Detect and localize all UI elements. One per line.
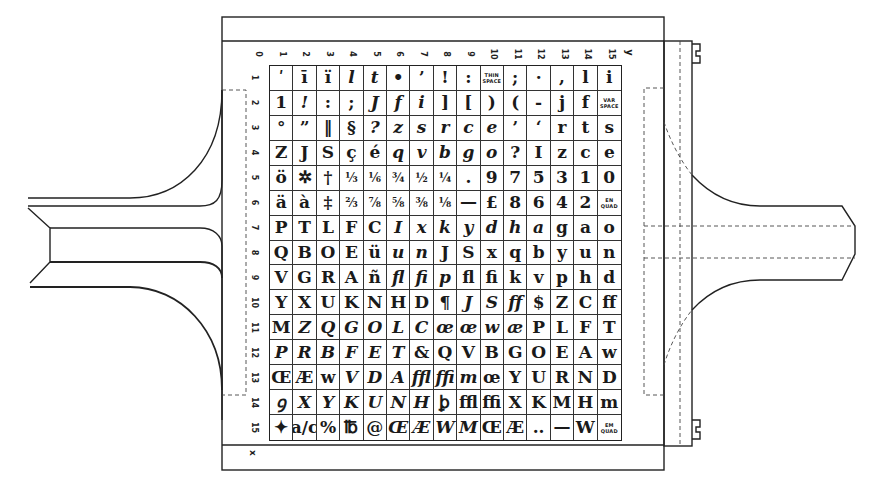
matrix-cell: M bbox=[457, 415, 480, 440]
matrix-cell: a bbox=[574, 216, 597, 241]
matrix-cell: S bbox=[457, 241, 480, 266]
matrix-cell: 1 bbox=[270, 91, 293, 116]
matrix-cell: Z bbox=[293, 315, 316, 340]
row-index: 14 bbox=[242, 395, 267, 411]
matrix-cell: ﬄ bbox=[410, 365, 433, 390]
matrix-cell: T bbox=[598, 315, 621, 340]
matrix-cell: Œ bbox=[481, 415, 504, 440]
matrix-cell: r bbox=[551, 116, 574, 141]
matrix-cell: ’ bbox=[410, 66, 433, 91]
column-index: 10 bbox=[487, 43, 499, 66]
matrix-cell: ½ bbox=[410, 166, 433, 191]
matrix-cell: a bbox=[527, 216, 550, 241]
matrix-cell: m bbox=[598, 390, 621, 415]
matrix-cell: q bbox=[387, 141, 410, 166]
matrix-cell: † bbox=[317, 166, 340, 191]
matrix-cell: y bbox=[551, 241, 574, 266]
matrix-cell: ī bbox=[293, 66, 316, 91]
matrix-cell: ﬂ bbox=[387, 265, 410, 290]
column-index: 3 bbox=[322, 43, 334, 66]
matrix-cell: THIN SPACE bbox=[481, 66, 504, 91]
row-index: 9 bbox=[242, 270, 267, 286]
matrix-cell: G bbox=[340, 315, 363, 340]
matrix-cell: t bbox=[364, 66, 387, 91]
row-index: 1 bbox=[242, 70, 267, 86]
matrix-cell: J bbox=[364, 91, 387, 116]
matrix-cell: t bbox=[574, 116, 597, 141]
matrix-cell: é bbox=[364, 141, 387, 166]
matrix-cell: B bbox=[293, 241, 316, 266]
matrix-cell: £ bbox=[481, 191, 504, 216]
matrix-cell: @ bbox=[364, 415, 387, 440]
matrix-cell: : bbox=[317, 91, 340, 116]
matrix-cell: Q bbox=[317, 315, 340, 340]
matrix-cell: Œ bbox=[387, 415, 410, 440]
row-index: 5 bbox=[242, 170, 267, 186]
matrix-cell: K bbox=[340, 290, 363, 315]
matrix-cell: ¶ bbox=[434, 290, 457, 315]
matrix-cell: U bbox=[527, 365, 550, 390]
matrix-cell: ” bbox=[293, 116, 316, 141]
matrix-cell: [ bbox=[457, 91, 480, 116]
matrix-cell: k bbox=[434, 216, 457, 241]
matrix-cell: M bbox=[551, 390, 574, 415]
matrix-cell: L bbox=[317, 216, 340, 241]
matrix-cell: c bbox=[574, 141, 597, 166]
matrix-cell: u bbox=[387, 241, 410, 266]
matrix-cell: k bbox=[504, 265, 527, 290]
matrix-cell: N bbox=[387, 390, 410, 415]
column-index: 1 bbox=[275, 43, 287, 66]
matrix-cell: G bbox=[293, 265, 316, 290]
matrix-cell: L bbox=[387, 315, 410, 340]
matrix-cell: d bbox=[481, 216, 504, 241]
matrix-cell: ﬀ bbox=[598, 290, 621, 315]
matrix-cell: p bbox=[434, 265, 457, 290]
matrix-cell: c bbox=[457, 116, 480, 141]
matrix-cell: n bbox=[410, 241, 433, 266]
column-index: 11 bbox=[510, 43, 522, 66]
matrix-cell: z bbox=[387, 116, 410, 141]
matrix-cell: ʹ bbox=[270, 66, 293, 91]
matrix-cell: C bbox=[410, 315, 433, 340]
matrix-cell: F bbox=[340, 216, 363, 241]
matrix-cell: 6 bbox=[527, 191, 550, 216]
row-index: 12 bbox=[242, 345, 267, 361]
matrix-cell: o bbox=[598, 216, 621, 241]
matrix-cell: æ bbox=[504, 315, 527, 340]
matrix-cell: w bbox=[598, 340, 621, 365]
matrix-cell: E bbox=[551, 340, 574, 365]
matrix-cell: ﬁ bbox=[481, 265, 504, 290]
matrix-cell: C bbox=[364, 216, 387, 241]
matrix-cell: ï bbox=[317, 66, 340, 91]
matrix-cell: ‖ bbox=[317, 116, 340, 141]
matrix-cell: Y bbox=[504, 365, 527, 390]
matrix-cell: D bbox=[598, 365, 621, 390]
matrix-cell: § bbox=[340, 116, 363, 141]
matrix-cell: N bbox=[364, 290, 387, 315]
y-axis-label: y bbox=[624, 49, 635, 56]
matrix-cell: ﬃ bbox=[481, 390, 504, 415]
matrix-cell: , bbox=[551, 66, 574, 91]
matrix-cell: ° bbox=[270, 116, 293, 141]
matrix-cell: J bbox=[293, 141, 316, 166]
matrix-cell: z bbox=[551, 141, 574, 166]
matrix-cell: r bbox=[434, 116, 457, 141]
matrix-cell: b bbox=[527, 241, 550, 266]
row-index: 3 bbox=[242, 120, 267, 136]
column-index: 8 bbox=[440, 43, 452, 66]
column-index: 13 bbox=[557, 43, 569, 66]
matrix-cell: L bbox=[551, 315, 574, 340]
matrix-cell: M bbox=[270, 315, 293, 340]
matrix-cell: m bbox=[457, 365, 480, 390]
matrix-cell: 2 bbox=[574, 191, 597, 216]
matrix-cell: Q bbox=[434, 340, 457, 365]
matrix-cell: j bbox=[551, 91, 574, 116]
matrix-cell: E bbox=[364, 340, 387, 365]
matrix-cell: ? bbox=[504, 141, 527, 166]
matrix-cell: S bbox=[481, 290, 504, 315]
matrix-cell: i bbox=[598, 66, 621, 91]
row-index: 15 bbox=[242, 420, 267, 436]
matrix-cell: œ bbox=[434, 315, 457, 340]
matrix-cell: C bbox=[574, 290, 597, 315]
matrix-cell: œ bbox=[481, 365, 504, 390]
